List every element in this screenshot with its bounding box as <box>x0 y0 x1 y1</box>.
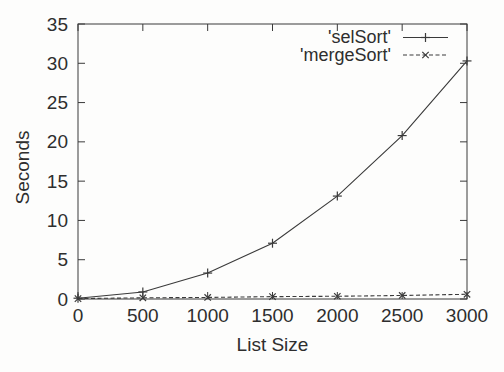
y-tick-label: 15 <box>47 171 68 192</box>
y-tick-label: 25 <box>47 92 68 113</box>
x-axis-label: List Size <box>237 334 309 355</box>
x-tick-label: 500 <box>127 305 159 326</box>
x-tick-label: 0 <box>73 305 84 326</box>
y-tick-label: 5 <box>57 249 68 270</box>
x-tick-label: 2000 <box>316 305 358 326</box>
y-tick-label: 0 <box>57 289 68 310</box>
y-axis-label: Seconds <box>12 131 33 205</box>
y-tick-label: 30 <box>47 53 68 74</box>
legend-label-1: 'mergeSort' <box>300 45 391 65</box>
x-tick-label: 1500 <box>251 305 293 326</box>
series-line-0 <box>78 61 467 298</box>
chart-figure: 05001000150020002500300005101520253035Li… <box>0 0 504 372</box>
x-tick-label: 3000 <box>446 305 488 326</box>
plot-border <box>78 24 467 299</box>
x-tick-label: 2500 <box>381 305 423 326</box>
x-tick-label: 1000 <box>187 305 229 326</box>
chart-svg: 05001000150020002500300005101520253035Li… <box>0 0 504 372</box>
y-tick-label: 35 <box>47 14 68 35</box>
y-tick-label: 20 <box>47 131 68 152</box>
y-tick-label: 10 <box>47 210 68 231</box>
